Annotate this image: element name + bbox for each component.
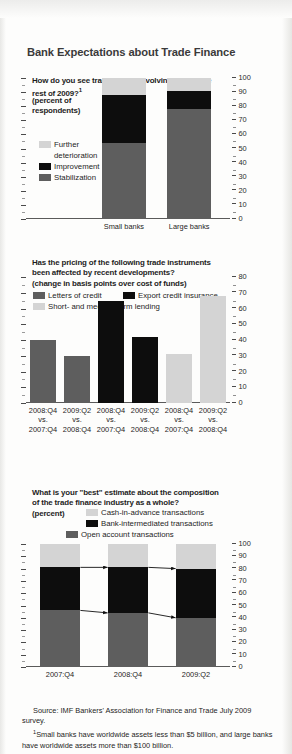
panel1-ytick-60: 60 — [232, 130, 247, 137]
tick-label: 0 — [239, 398, 243, 407]
legend-swatch-open-account — [66, 531, 78, 539]
tick-dash — [232, 555, 236, 556]
panel3-yminor-35 — [233, 624, 236, 625]
legend-label-open-account: Open account transactions — [81, 530, 174, 539]
panel1-ytick-0: 0 — [232, 215, 243, 222]
legend-swatch-stabilization — [39, 174, 51, 182]
panel1-ytick-70: 70 — [232, 116, 247, 123]
source-note: Source: IMF Bankers' Association for Fin… — [22, 706, 274, 751]
tick-label: 100 — [239, 73, 251, 82]
tick-label: 50 — [239, 144, 247, 153]
panel2-left-minor-15 — [22, 379, 25, 380]
panel3-question-line2: of the trade finance industry as a whole… — [32, 498, 179, 508]
panel3-bar-2008Q4-open-account-transactions — [108, 613, 149, 667]
tick-dash — [232, 543, 236, 544]
panel2-yminor-75 — [233, 285, 236, 286]
tick-dash — [232, 77, 236, 78]
legend-label-further-deterioration-2: deterioration — [54, 151, 97, 160]
panel2-xlabel-5: 2009:Q2vs.2008:Q4 — [193, 406, 233, 434]
panel1-yminor-65 — [233, 127, 236, 128]
panel3-left-tick-10 — [21, 655, 26, 656]
legend-label-bank-intermediated: Bank-intermediated transactions — [101, 519, 213, 528]
panel3-left-minor-45 — [22, 612, 25, 613]
panel3-left-tick-100 — [21, 544, 26, 545]
tick-label: 30 — [239, 351, 247, 360]
panel3-left-tick-70 — [21, 581, 26, 582]
tick-dash — [232, 175, 236, 176]
panel1-ytick-100: 100 — [232, 74, 251, 81]
panel2-left-tick-30 — [21, 356, 26, 357]
panel1-yminor-15 — [233, 198, 236, 199]
panel3-bar-2009Q2-open-account-transactions — [176, 618, 217, 667]
panel2-xlabel-5-line3: 2008:Q4 — [193, 425, 233, 434]
panel-composition: What is your "best" estimate about the c… — [0, 488, 292, 688]
footnote-line: 1Small banks have worldwide assets less … — [22, 727, 274, 751]
tick-dash — [232, 291, 236, 292]
panel3-left-minor-25 — [22, 636, 25, 637]
panel2-bar-4 — [166, 354, 191, 403]
tick-dash — [232, 592, 236, 593]
panel1-bar-large-banks-improvement — [167, 91, 211, 109]
panel3-bar-2008Q4-cash-in-advance-transactions — [108, 544, 149, 567]
tick-label: 30 — [239, 625, 247, 634]
panel2-ytick-60: 60 — [232, 305, 247, 312]
panel3-ytick-40: 40 — [232, 614, 247, 621]
panel3-left-tick-80 — [21, 569, 26, 570]
panel1-yminor-95 — [233, 85, 236, 86]
legend-item-further-deterioration: Further — [39, 140, 79, 149]
tick-label: 30 — [239, 172, 247, 181]
panel1-left-tick-60 — [21, 134, 26, 135]
panel2-left-minor-5 — [22, 395, 25, 396]
panel3-xlabel-2: 2009:Q2 — [162, 670, 230, 679]
tick-dash — [232, 567, 236, 568]
tick-label: 0 — [239, 214, 243, 223]
panel1-yminor-35 — [233, 170, 236, 171]
panel3-yminor-25 — [233, 636, 236, 637]
tick-label: 90 — [239, 87, 247, 96]
panel2-left-minor-55 — [22, 316, 25, 317]
legend-item-open-account: Open account transactions — [66, 530, 174, 539]
panel1-bar-small-banks-further-deterioration — [102, 78, 146, 95]
panel1-ytick-40: 40 — [232, 159, 247, 166]
panel1-left-minor-75 — [22, 113, 25, 114]
panel2-ytick-50: 50 — [232, 320, 247, 327]
panel1-bar-large-banks-further-deterioration — [167, 78, 211, 91]
panel2-left-minor-45 — [22, 332, 25, 333]
panel2-left-tick-10 — [21, 387, 26, 388]
tick-label: 40 — [239, 613, 247, 622]
panel3-xlabel-1: 2008:Q4 — [94, 670, 162, 679]
panel1-yminor-85 — [233, 99, 236, 100]
panel2-bar-0 — [30, 340, 55, 403]
panel1-left-tick-20 — [21, 191, 26, 192]
panel3-yminor-55 — [233, 599, 236, 600]
tick-label: 60 — [239, 588, 247, 597]
panel3-left-tick-50 — [21, 606, 26, 607]
source-line: Source: IMF Bankers' Association for Fin… — [22, 706, 274, 727]
tick-dash — [232, 604, 236, 605]
panel3-left-minor-65 — [22, 587, 25, 588]
panel3-xlabel-0: 2007:Q4 — [26, 670, 94, 679]
panel3-left-tick-40 — [21, 618, 26, 619]
panel3-ytick-10: 10 — [232, 651, 247, 658]
panel2-yminor-45 — [233, 332, 236, 333]
panel1-ytick-10: 10 — [232, 201, 247, 208]
panel1-ytick-90: 90 — [232, 88, 247, 95]
panel3-bar-2007Q4-cash-in-advance-transactions — [40, 544, 81, 567]
panel3-left-minor-85 — [22, 562, 25, 563]
panel3-yminor-65 — [233, 587, 236, 588]
panel1-left-tick-50 — [21, 149, 26, 150]
tick-dash — [232, 616, 236, 617]
legend-item-cash-in-advance: Cash-in-advance transactions — [86, 508, 204, 517]
legend-label-cash-in-advance: Cash-in-advance transactions — [101, 508, 204, 517]
tick-dash — [232, 629, 236, 630]
legend-item-bank-intermediated: Bank-intermediated transactions — [86, 519, 213, 528]
panel2-ytick-70: 70 — [232, 289, 247, 296]
panel3-left-minor-15 — [22, 649, 25, 650]
tick-label: 50 — [239, 601, 247, 610]
panel3-ytick-0: 0 — [232, 663, 243, 670]
tick-dash — [232, 276, 236, 277]
tick-label: 20 — [239, 186, 247, 195]
panel1-ytick-20: 20 — [232, 187, 247, 194]
panel2-bar-1 — [64, 356, 89, 403]
tick-dash — [232, 189, 236, 190]
